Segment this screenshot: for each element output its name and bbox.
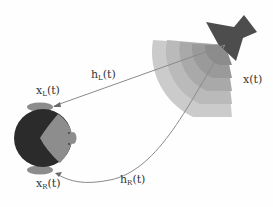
sound-field	[152, 40, 232, 117]
h-right-label: hR(t)	[120, 173, 145, 187]
right-ear-label: xR(t)	[36, 177, 61, 191]
head-icon	[14, 103, 77, 175]
binaural-diagram: x(t) hL(t) hR(t) xL(t) xR(t)	[0, 0, 273, 207]
source-label: x(t)	[243, 73, 262, 86]
h-left-label: hL(t)	[91, 68, 116, 82]
left-ear-label: xL(t)	[36, 84, 60, 98]
